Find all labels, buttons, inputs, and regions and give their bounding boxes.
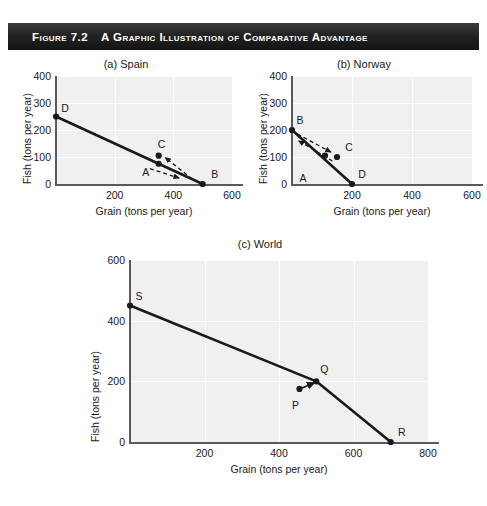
x-axis-label-a: Grain (tons per year) (56, 205, 232, 217)
figure-banner-text: Figure 7.2A Graphic Illustration of Comp… (32, 31, 368, 43)
point-label-c: C (345, 141, 353, 153)
gridline-horizontal (130, 321, 428, 322)
gridline-horizontal (56, 103, 232, 104)
y-axis-c (129, 260, 131, 442)
x-tick-label: 400 (270, 447, 288, 459)
point-label-r: R (398, 426, 406, 438)
point-label-b: B (211, 168, 218, 180)
figure-title: A Graphic Illustration of Comparative Ad… (101, 31, 368, 43)
gridline-vertical (354, 260, 355, 442)
panel-title-b: (b) Norway (248, 58, 480, 70)
gridline-horizontal (56, 130, 232, 131)
plot-area-b (292, 76, 472, 184)
y-tick-label: 200 (107, 375, 125, 387)
gridline-horizontal (292, 103, 472, 104)
x-axis-label-c: Grain (tons per year) (130, 463, 428, 475)
y-tick-label: 600 (107, 254, 125, 266)
chart-panel-norway: (b) Norway0100200300400200400600Grain (t… (248, 58, 480, 218)
gridline-horizontal (292, 130, 472, 131)
gridlines-c (130, 260, 428, 442)
gridline-horizontal (130, 381, 428, 382)
y-tick-label: 100 (33, 151, 51, 163)
x-tick-label: 200 (106, 189, 124, 201)
y-tick-label: 100 (269, 151, 287, 163)
panel-title-c: (c) World (80, 238, 440, 250)
point-label-b: B (296, 114, 303, 126)
point-label-d: D (358, 168, 366, 180)
y-tick-label: 0 (281, 178, 287, 190)
point-label-a: A (142, 166, 149, 178)
gridlines-b (292, 76, 472, 184)
point-label-s: S (135, 290, 142, 302)
y-tick-label: 400 (269, 70, 287, 82)
point-label-q: Q (320, 363, 328, 375)
y-axis-a (55, 76, 57, 184)
y-axis-label-a: Fish (tons per year) (21, 93, 33, 184)
point-label-p: P (292, 399, 299, 411)
plot-area-c (130, 260, 428, 442)
y-tick-label: 0 (45, 178, 51, 190)
x-axis-c (129, 442, 439, 444)
gridline-horizontal (56, 157, 232, 158)
figure-number: Figure 7.2 (32, 31, 88, 43)
x-axis-b (291, 184, 483, 186)
point-label-c: C (158, 138, 166, 150)
figure-banner: Figure 7.2A Graphic Illustration of Comp… (8, 23, 479, 50)
y-tick-label: 0 (119, 436, 125, 448)
x-tick-label: 400 (165, 189, 183, 201)
gridline-vertical (205, 260, 206, 442)
gridline-horizontal (292, 157, 472, 158)
chart-panel-world: (c) World0200400600200400600800Grain (to… (80, 238, 440, 496)
x-axis-label-b: Grain (tons per year) (292, 205, 472, 217)
gridline-horizontal (130, 260, 428, 261)
y-tick-label: 400 (107, 315, 125, 327)
y-tick-label: 400 (33, 70, 51, 82)
point-label-d: D (61, 102, 69, 114)
panel-title-a: (a) Spain (12, 58, 240, 70)
x-tick-label: 200 (343, 189, 361, 201)
x-tick-label: 800 (419, 447, 437, 459)
y-axis-b (291, 76, 293, 184)
y-axis-label-c: Fish (tons per year) (89, 351, 101, 442)
x-tick-label: 600 (345, 447, 363, 459)
chart-panel-spain: (a) Spain0100200300400200400600Grain (to… (12, 58, 240, 218)
y-tick-label: 200 (33, 124, 51, 136)
gridline-vertical (279, 260, 280, 442)
y-tick-label: 200 (269, 124, 287, 136)
y-tick-label: 300 (33, 97, 51, 109)
gridline-horizontal (56, 76, 232, 77)
x-tick-label: 200 (196, 447, 214, 459)
point-label-a: A (299, 172, 306, 184)
gridline-horizontal (292, 76, 472, 77)
x-axis-a (55, 184, 243, 186)
y-tick-label: 300 (269, 97, 287, 109)
x-tick-label: 400 (403, 189, 421, 201)
y-axis-label-b: Fish (tons per year) (257, 93, 269, 184)
x-tick-label: 600 (463, 189, 481, 201)
x-tick-label: 600 (223, 189, 241, 201)
